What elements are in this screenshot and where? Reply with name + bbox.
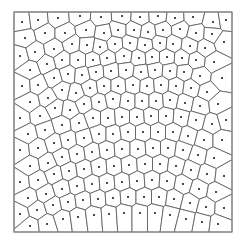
seed-point xyxy=(112,98,114,100)
seed-point xyxy=(83,168,85,170)
voronoi-cell xyxy=(202,12,221,29)
seed-point xyxy=(121,148,123,150)
seed-point xyxy=(211,123,213,125)
seed-point xyxy=(172,43,174,45)
seed-point xyxy=(57,17,59,19)
seed-point xyxy=(198,188,200,190)
seed-point xyxy=(52,204,54,206)
seed-point xyxy=(150,115,152,117)
seed-point xyxy=(223,175,225,177)
seed-point xyxy=(67,139,69,141)
seed-point xyxy=(151,56,153,58)
seed-point xyxy=(213,157,215,159)
seed-point xyxy=(117,29,119,31)
seed-point xyxy=(92,59,94,61)
seed-point xyxy=(175,85,177,87)
seed-point xyxy=(53,173,55,175)
seed-point xyxy=(142,131,144,133)
seed-point xyxy=(190,87,192,89)
seed-point xyxy=(192,16,194,18)
seed-point xyxy=(106,182,108,184)
voronoi-cell xyxy=(116,204,132,232)
seed-point xyxy=(71,43,73,45)
seed-point xyxy=(77,59,79,61)
seed-point xyxy=(107,117,109,119)
seed-point xyxy=(68,170,70,172)
seed-point xyxy=(139,16,141,18)
seed-point xyxy=(140,71,142,73)
seed-point xyxy=(182,149,184,151)
seed-point xyxy=(19,181,21,183)
seed-point xyxy=(169,70,171,72)
seed-point xyxy=(37,19,39,21)
voronoi-cell xyxy=(101,205,118,232)
seed-point xyxy=(21,21,23,23)
seed-point xyxy=(206,173,208,175)
seed-point xyxy=(123,55,125,57)
seed-point xyxy=(113,165,115,167)
seed-point xyxy=(158,196,160,198)
seed-point xyxy=(44,32,46,34)
seed-point xyxy=(195,119,197,121)
seed-point xyxy=(98,166,100,168)
seed-point xyxy=(211,33,213,35)
seed-point xyxy=(169,214,171,216)
seed-point xyxy=(189,45,191,47)
seed-point xyxy=(159,42,161,44)
seed-point xyxy=(141,100,143,102)
seed-point xyxy=(29,101,31,103)
seed-point xyxy=(167,147,169,149)
seed-point xyxy=(127,131,129,133)
seed-point xyxy=(98,101,100,103)
seed-point xyxy=(67,201,69,203)
seed-point xyxy=(221,139,223,141)
seed-point xyxy=(160,84,162,86)
seed-point xyxy=(78,122,80,124)
seed-point xyxy=(225,19,227,21)
seed-point xyxy=(187,135,189,137)
seed-point xyxy=(165,115,167,117)
seed-point xyxy=(97,198,99,200)
voronoi-diagram xyxy=(0,0,242,249)
seed-point xyxy=(76,153,78,155)
seed-point xyxy=(121,181,123,183)
seed-point xyxy=(95,71,97,73)
seed-point xyxy=(44,129,46,131)
seed-point xyxy=(138,57,140,59)
seed-point xyxy=(204,47,206,49)
seed-point xyxy=(190,169,192,171)
voronoi-cell xyxy=(85,206,102,232)
seed-point xyxy=(103,32,105,34)
seed-point xyxy=(82,199,84,201)
seed-point xyxy=(201,221,203,223)
seed-point xyxy=(189,202,191,204)
seed-point xyxy=(221,77,223,79)
seed-point xyxy=(117,85,119,87)
seed-point xyxy=(45,193,47,195)
seed-point xyxy=(92,117,94,119)
seed-point xyxy=(21,85,23,87)
seed-point xyxy=(169,99,171,101)
seed-point xyxy=(133,29,135,31)
seed-point xyxy=(180,116,182,118)
seed-point xyxy=(53,48,55,50)
seed-point xyxy=(86,44,88,46)
seed-point xyxy=(139,212,141,214)
voronoi-cells xyxy=(14,12,232,232)
seed-point xyxy=(29,69,31,71)
seed-point xyxy=(77,216,79,218)
seed-point xyxy=(27,197,29,199)
seed-point xyxy=(147,31,149,33)
seed-point xyxy=(85,29,87,31)
seed-point xyxy=(53,142,55,144)
seed-point xyxy=(83,137,85,139)
seed-point xyxy=(62,218,64,220)
seed-point xyxy=(61,89,63,91)
seed-point xyxy=(19,55,21,57)
voronoi-canvas xyxy=(0,0,242,249)
seed-point xyxy=(69,109,71,111)
seed-point xyxy=(162,29,164,31)
seed-point xyxy=(46,223,48,225)
seed-point xyxy=(27,133,29,135)
seed-point xyxy=(195,59,197,61)
